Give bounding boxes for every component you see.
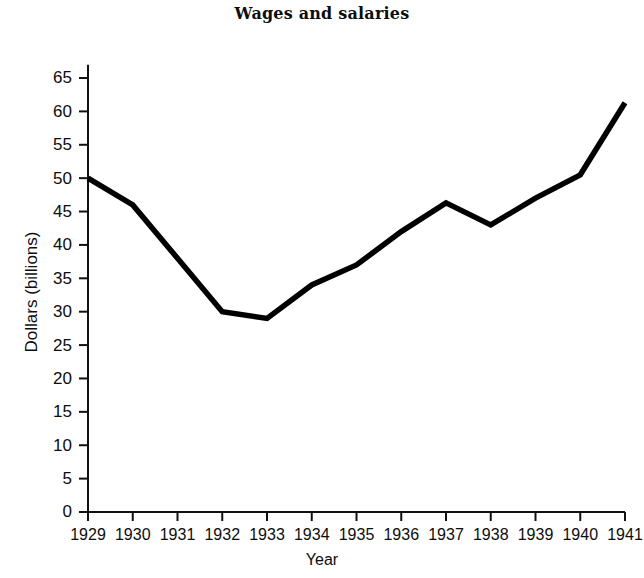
x-tick-label: 1941 [607, 526, 643, 543]
y-tick-label: 65 [53, 68, 72, 87]
y-tick-label: 20 [53, 369, 72, 388]
x-tick-label: 1938 [473, 526, 509, 543]
y-tick-label: 45 [53, 202, 72, 221]
x-axis-ticks: 1929193019311932193319341935193619371938… [70, 512, 643, 543]
y-tick-label: 50 [53, 169, 72, 188]
x-tick-label: 1934 [294, 526, 330, 543]
chart-container: Wages and salaries Dollars (billions) Ye… [0, 0, 644, 578]
y-tick-label: 5 [63, 469, 72, 488]
plot-area: 05101520253035404550556065 1929193019311… [0, 0, 644, 578]
x-tick-label: 1936 [383, 526, 419, 543]
y-tick-label: 25 [53, 336, 72, 355]
x-tick-label: 1932 [204, 526, 240, 543]
x-tick-label: 1937 [428, 526, 464, 543]
x-tick-label: 1940 [562, 526, 598, 543]
y-tick-label: 60 [53, 102, 72, 121]
x-tick-label: 1935 [339, 526, 375, 543]
y-tick-label: 55 [53, 135, 72, 154]
x-tick-label: 1933 [249, 526, 285, 543]
y-tick-label: 30 [53, 302, 72, 321]
x-tick-label: 1930 [115, 526, 151, 543]
y-tick-label: 15 [53, 402, 72, 421]
x-tick-label: 1939 [518, 526, 554, 543]
y-tick-label: 40 [53, 235, 72, 254]
y-tick-label: 10 [53, 436, 72, 455]
x-tick-label: 1931 [160, 526, 196, 543]
x-tick-label: 1929 [70, 526, 106, 543]
y-tick-label: 35 [53, 269, 72, 288]
y-tick-label: 0 [63, 502, 72, 521]
y-axis-ticks: 05101520253035404550556065 [53, 68, 88, 521]
data-series-line [88, 103, 625, 319]
